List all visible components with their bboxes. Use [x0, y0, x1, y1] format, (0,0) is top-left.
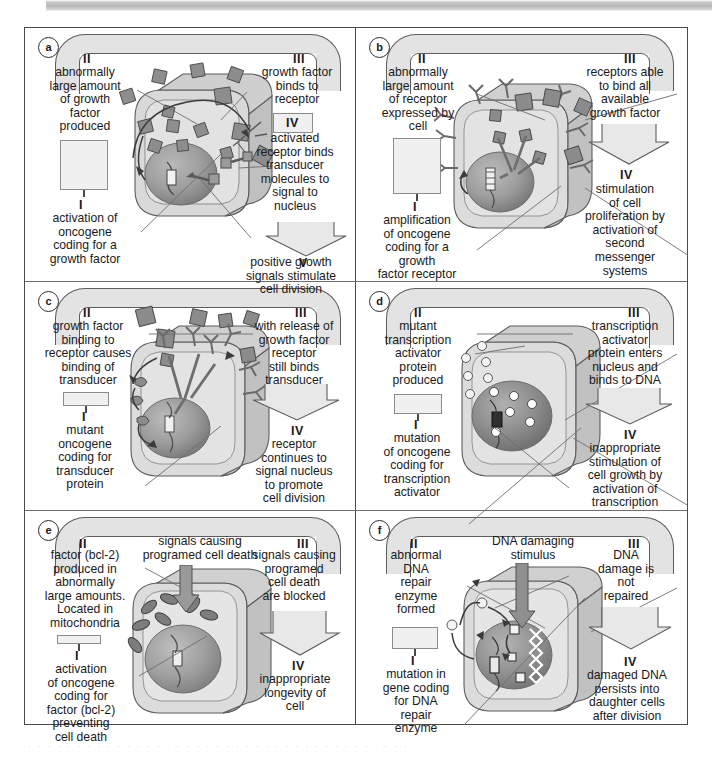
panel-b-roman-iv: IV: [620, 168, 633, 182]
panel-e-text-i: activation of oncogene coding for factor…: [29, 663, 133, 745]
panel-b-roman-iii: III: [624, 52, 636, 66]
panel-a-arrow-v: [264, 220, 348, 258]
panel-a-roman-i: I: [79, 198, 83, 212]
panel-a-text-iv: activated receptor binds transducer mole…: [238, 132, 352, 214]
panel-d-text-ii: mutant transcription activator protein p…: [362, 320, 474, 388]
panel-f-stimulus-arrow: [508, 563, 536, 629]
panel-d-text-i: mutation of oncogene coding for transcri…: [358, 432, 476, 500]
panel-a-roman-iii: III: [293, 52, 305, 66]
panel-e-text-ii: factor (bcl-2) produced in abnormally la…: [27, 549, 143, 631]
panel-b-roman-ii: II: [418, 52, 426, 66]
panel-f-text-i: mutation in gene coding for DNA repair e…: [360, 668, 472, 736]
panel-a-roman-ii: II: [83, 52, 91, 66]
panel-e-roman-i: I: [75, 649, 79, 663]
panel-f-bracket-i: [392, 627, 438, 649]
panel-d-roman-iv: IV: [624, 428, 637, 442]
panel-a: a II III: [25, 28, 355, 281]
panel-a-text-v: positive growth signals stimulate cell d…: [231, 256, 351, 297]
panel-c-text-ii: growth factor binding to receptor causes…: [27, 320, 149, 388]
panel-e-roman-iv: IV: [292, 659, 305, 673]
panel-b-bracket-i: [393, 138, 441, 194]
panel-letter-b: b: [369, 37, 390, 58]
panel-letter-a: a: [38, 37, 59, 58]
panel-c-roman-ii: II: [83, 306, 91, 320]
panel-b-text-ii: abnormally large amount of receptor expr…: [362, 66, 474, 134]
panel-f-text-iv: damaged DNA persists into daughter cells…: [566, 669, 688, 723]
panel-letter-f: f: [369, 520, 390, 541]
panel-e-bracket-i: [57, 635, 101, 644]
panel-a-roman-v: V: [299, 256, 308, 270]
panel-f-text-ii: abnormal DNA repair enzyme formed: [364, 549, 468, 617]
panel-f-arrow-iv: [586, 605, 676, 651]
figure-frame: a II III: [24, 27, 688, 725]
panel-f-centre-label: DNA damaging stimulus: [468, 535, 598, 562]
panel-a-text-iii: growth factor binds to receptor: [243, 66, 351, 107]
panel-e-roman-ii: II: [79, 537, 87, 551]
panel-e-centre-label: signals causing programed cell death: [135, 535, 265, 562]
panel-e-roman-iii: III: [297, 537, 309, 551]
panel-c-text-i: mutant oncogene coding for transducer pr…: [33, 424, 137, 492]
panel-letter-e: e: [38, 520, 59, 541]
panel-e: e II III signals causing programed cell …: [25, 511, 355, 725]
panel-f-roman-iv: IV: [624, 655, 637, 669]
panel-b-text-i: amplification of oncogene coding for a g…: [358, 214, 476, 282]
panel-c-arrow-iv: [251, 382, 343, 422]
panel-a-text-i: activation of oncogene coding for a grow…: [29, 212, 141, 266]
panel-e-signal-arrow: [172, 565, 200, 613]
panel-b-arrow-iv: [586, 122, 672, 166]
panel-e-text-iv: inappropriate longevity of cell: [239, 673, 351, 714]
panel-c-roman-i: I: [82, 410, 86, 424]
panel-b-text-iii: receptors able to bind all available gro…: [568, 66, 682, 120]
panel-d-text-iv: inappropriate stimulation of cell growth…: [564, 442, 686, 510]
panel-c-roman-iv: IV: [291, 424, 304, 438]
panel-f-roman-i: I: [411, 654, 415, 668]
panel-letter-c: c: [38, 291, 59, 312]
panel-c-text-iii: with release of growth factor receptor s…: [237, 320, 351, 388]
panel-b: b II III: [356, 28, 688, 281]
panel-a-bracket-i: [60, 140, 108, 190]
panel-b-roman-i: I: [413, 200, 417, 214]
panel-d: d II III: [356, 282, 688, 510]
panel-c-bracket-i: [63, 392, 109, 406]
panel-f-roman-ii: II: [410, 537, 418, 551]
panel-c: c II III: [25, 282, 355, 510]
panel-d-bracket-i: [394, 394, 442, 414]
panel-d-roman-i: I: [414, 418, 418, 432]
scan-edge-band: [0, 0, 712, 11]
panel-d-text-iii: transcription activator protein enters n…: [566, 320, 684, 388]
panel-c-text-iv: receptor continues to signal nucleus to …: [235, 438, 353, 506]
panel-b-text-iv: stimulation of cell proliferation by act…: [566, 183, 684, 278]
panel-f: f II III DNA damaging stimulus: [356, 511, 688, 725]
panel-d-roman-ii: II: [414, 306, 422, 320]
panel-d-roman-iii: III: [628, 306, 640, 320]
panel-letter-d: d: [369, 291, 390, 312]
panel-c-roman-iii: III: [295, 306, 307, 320]
panel-a-text-ii: abnormally large amount of growth factor…: [33, 66, 137, 134]
panel-a-roman-iv: IV: [286, 116, 299, 130]
panel-f-roman-iii: III: [628, 537, 640, 551]
panel-e-arrow-iv: [257, 609, 343, 657]
panel-d-arrow-iv: [584, 386, 676, 426]
